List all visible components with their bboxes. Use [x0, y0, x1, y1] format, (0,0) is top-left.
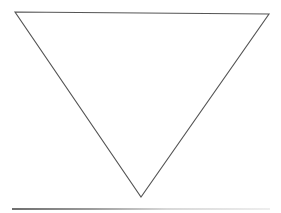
inverted-triangle-shape: [15, 12, 269, 197]
bottom-divider-line: [12, 208, 270, 210]
triangle-figure: [0, 0, 281, 213]
diagram-canvas: [0, 0, 281, 213]
